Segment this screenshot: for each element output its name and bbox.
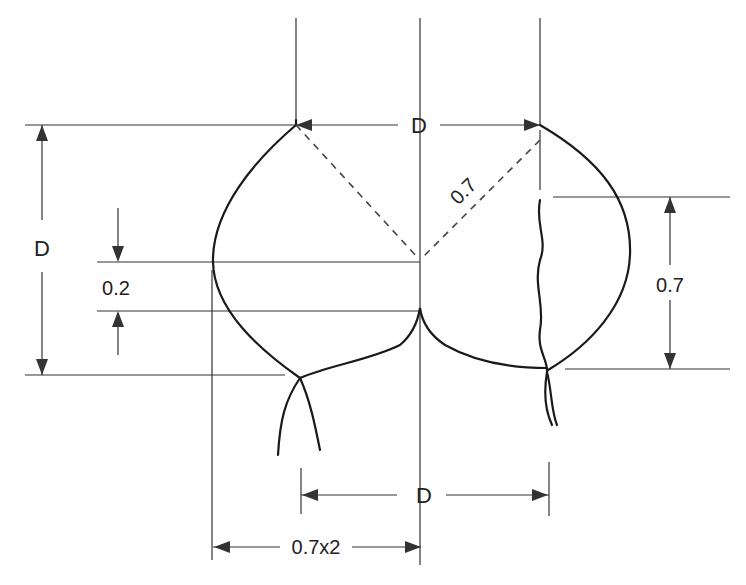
arrow-down-icon (664, 353, 676, 369)
arrow-left-icon (214, 541, 230, 553)
arrow-up-icon (36, 125, 48, 141)
arrow-left-icon (302, 489, 318, 501)
arrow-left-icon (296, 119, 312, 131)
arrow-down-icon (36, 359, 48, 375)
right-radius-dashed (422, 140, 540, 258)
arrow-right-icon (524, 119, 540, 131)
half-width-label: 0.7x2 (292, 536, 341, 558)
right-lobe-outline (540, 125, 630, 370)
arrow-right-icon (532, 489, 548, 501)
left-lobe-outline (213, 120, 300, 455)
left-tail (300, 378, 320, 450)
arrow-down-icon (112, 246, 124, 262)
right-height-label: 0.7 (656, 274, 684, 296)
left-height-label: D (34, 236, 50, 261)
arrow-right-icon (405, 541, 421, 553)
bottom-width-label: D (416, 483, 432, 508)
left-radius-dashed (296, 125, 418, 258)
arrow-up-icon (664, 197, 676, 213)
gap-label: 0.2 (102, 277, 130, 299)
center-bottom-curve (300, 308, 547, 378)
arrow-up-icon (112, 311, 124, 327)
radius-label: 0.7 (445, 173, 480, 208)
dimension-diagram: D D 0.2 0.7 0.7 D 0.7x2 (0, 0, 746, 585)
top-width-label: D (411, 113, 427, 138)
